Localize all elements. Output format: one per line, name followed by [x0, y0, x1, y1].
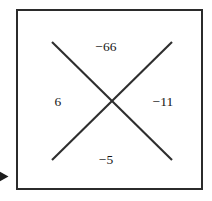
value-top: −66: [0, 40, 212, 54]
value-left: 6: [40, 95, 76, 109]
value-bottom: −5: [0, 153, 212, 167]
figure-canvas: −66 6 −11 −5: [0, 0, 212, 201]
value-right: −11: [139, 95, 187, 109]
arrow-right-icon: [0, 171, 9, 182]
